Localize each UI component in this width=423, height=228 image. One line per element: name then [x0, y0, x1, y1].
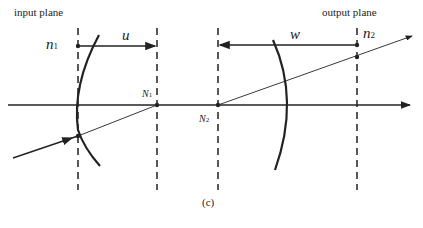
n2-label: n2 [363, 25, 375, 42]
n1-label: n1 [46, 36, 58, 53]
figure-caption: (c) [202, 196, 214, 208]
incoming-ray [13, 138, 72, 158]
u-label: u [122, 27, 130, 44]
outgoing-ray [218, 36, 412, 105]
output-plane-label: output plane [322, 6, 377, 18]
w-label: w [290, 26, 300, 43]
n1-point [76, 44, 80, 48]
internal-ray-1 [78, 105, 157, 136]
N2-label: N2 [199, 113, 209, 124]
n2-point [355, 43, 359, 47]
input-plane-label: input plane [14, 6, 63, 18]
lens-surface-1 [77, 35, 100, 166]
N1-label: N1 [142, 88, 152, 99]
lens-diagram [0, 0, 423, 228]
